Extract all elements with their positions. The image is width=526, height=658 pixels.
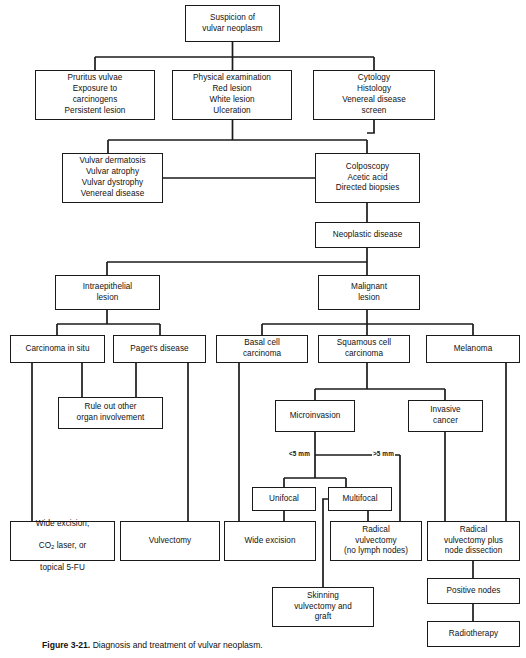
figure-caption-label: Figure 3-21. [42, 640, 90, 650]
node-malignant-lesion: Malignant lesion [318, 275, 420, 310]
node-radical-vulvectomy-plus-node-dissection: Radical vulvectomy plus node dissection [427, 521, 520, 561]
node-pagets-disease: Paget's disease [113, 335, 206, 363]
node-basal-cell-carcinoma: Basal cell carcinoma [216, 335, 308, 363]
node-cytology: Cytology Histology Venereal disease scre… [313, 70, 435, 120]
node-multifocal: Multifocal [328, 487, 392, 511]
node-skinning-vulvectomy-and-graft: Skinning vulvectomy and graft [272, 587, 374, 627]
node-neoplastic-disease: Neoplastic disease [315, 222, 420, 248]
edge-label-less-than-5mm: <5 mm [288, 450, 311, 457]
node-wide-excision-co2-laser-topical-5fu: Wide excision, CO2 laser, or topical 5-F… [10, 521, 115, 561]
node-microinvasion: Microinvasion [275, 400, 355, 432]
node-unifocal: Unifocal [252, 487, 316, 511]
treatment-text-block: Wide excision, CO2 laser, or topical 5-F… [36, 508, 89, 574]
node-colposcopy: Colposcopy Acetic acid Directed biopsies [315, 153, 420, 203]
vulvar-neoplasm-flowchart: Suspicion of vulvar neoplasm Pruritus vu… [0, 0, 526, 658]
node-rule-out-other-organ-involvement: Rule out other organ involvement [58, 397, 163, 429]
node-melanoma: Melanoma [426, 335, 520, 363]
node-vulvar-dermatosis: Vulvar dermatosis Vulvar atrophy Vulvar … [62, 153, 163, 203]
node-positive-nodes: Positive nodes [427, 578, 520, 604]
node-vulvectomy: Vulvectomy [120, 521, 220, 561]
figure-caption-text: Diagnosis and treatment of vulvar neopla… [93, 640, 263, 650]
node-suspicion-of-vulvar-neoplasm: Suspicion of vulvar neoplasm [185, 5, 280, 42]
node-intraepithelial-lesion: Intraepithelial lesion [55, 275, 160, 310]
node-radical-vulvectomy-no-lymph-nodes: Radical vulvectomy (no lymph nodes) [330, 521, 422, 561]
node-invasive-cancer: Invasive cancer [408, 400, 483, 432]
edge-label-greater-than-5mm: >5 mm [372, 450, 395, 457]
node-carcinoma-in-situ: Carcinoma in situ [10, 335, 105, 363]
node-wide-excision: Wide excision [224, 521, 316, 561]
node-radiotherapy: Radiotherapy [427, 621, 520, 647]
node-pruritus-vulvae: Pruritus vulvae Exposure to carcinogens … [35, 70, 155, 120]
node-squamous-cell-carcinoma: Squamous cell carcinoma [318, 335, 410, 363]
node-physical-examination: Physical examination Red lesion White le… [172, 70, 292, 120]
